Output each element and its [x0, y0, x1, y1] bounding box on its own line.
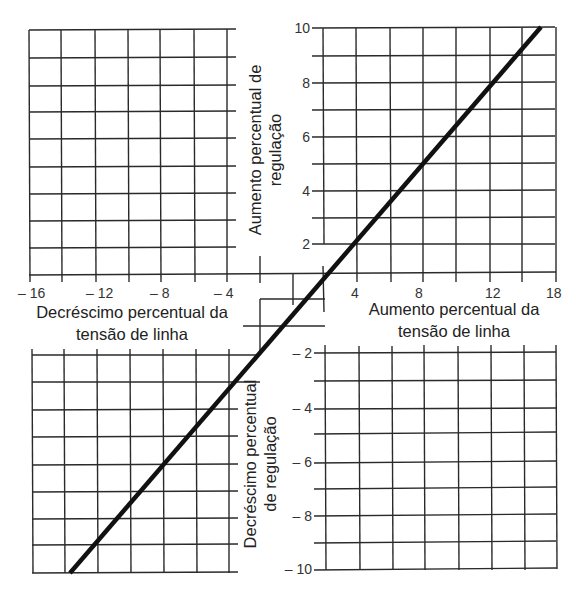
y-pos-label-line1: Aumento percentual de — [246, 65, 264, 236]
y-tick: 8 — [302, 75, 310, 91]
y-tick: – 8 — [293, 508, 313, 524]
x-pos-label-line1: Aumento percentual da — [369, 300, 540, 318]
y-tick: – 6 — [293, 454, 313, 470]
y-tick: 10 — [294, 20, 310, 36]
x-tick: – 12 — [86, 285, 113, 301]
y-tick: 6 — [302, 129, 310, 145]
x-tick: – 16 — [18, 285, 45, 301]
x-tick: 12 — [485, 285, 501, 301]
y-neg-label-line1: Decréscimo percentual — [241, 380, 259, 549]
y-pos-label-line2: regulação — [266, 114, 284, 186]
x-neg-label-line1: Decréscimo percentual da — [36, 303, 228, 321]
grid-upper-left — [29, 29, 236, 282]
y-tick: – 10 — [285, 561, 312, 577]
y-tick: 2 — [302, 236, 310, 252]
regulation-chart: – 16 – 12 – 8 – 4 4 8 12 18 10 8 6 4 2 –… — [0, 0, 576, 595]
y-axis-title-negative: Decréscimo percentual de regulação — [241, 380, 279, 549]
grid-lower-left — [32, 349, 260, 573]
x-tick: – 4 — [214, 285, 234, 301]
y-neg-label-line2: de regulação — [261, 416, 279, 511]
y-tick: – 4 — [293, 400, 313, 416]
x-pos-label-line2: tensão de linha — [398, 322, 511, 340]
y-tick: – 2 — [293, 345, 313, 361]
x-neg-label-line2: tensão de linha — [76, 325, 189, 343]
x-tick: 18 — [546, 285, 562, 301]
y-axis-title-positive: Aumento percentual de regulação — [246, 65, 284, 236]
grid-upper-right — [312, 27, 556, 282]
x-tick: 4 — [351, 285, 359, 301]
x-tick: – 8 — [150, 285, 170, 301]
x-axis-title-negative: Decréscimo percentual da tensão de linha — [36, 303, 228, 343]
grid-lower-right — [314, 345, 557, 570]
center-inset — [243, 266, 325, 355]
x-axis-title-positive: Aumento percentual da tensão de linha — [369, 300, 540, 340]
y-tick: 4 — [302, 183, 310, 199]
x-tick: 8 — [415, 285, 423, 301]
